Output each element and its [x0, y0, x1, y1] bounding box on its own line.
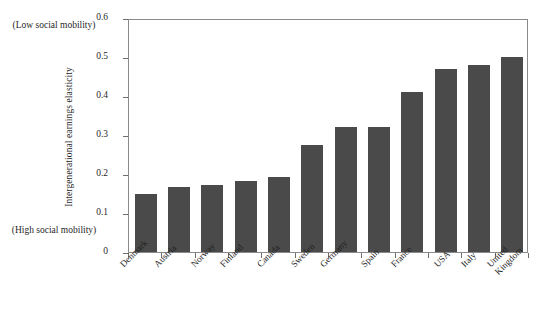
y-tick-label: 0 [103, 246, 108, 256]
plot-area [128, 19, 528, 253]
chart-page: (Low social mobility) (High social mobil… [0, 0, 546, 316]
annotation-high-social-mobility: (High social mobility) [2, 224, 106, 236]
bar [335, 127, 357, 252]
x-tick-mark [528, 253, 529, 258]
y-tick-label: 0.3 [96, 129, 108, 139]
y-tick-label: 0.5 [96, 51, 108, 61]
bar [435, 69, 457, 252]
bar [368, 127, 390, 252]
y-axis-title: Intergenerational earnings elasticity [64, 47, 74, 227]
bar [235, 181, 257, 252]
bar [401, 92, 423, 252]
bar [301, 145, 323, 252]
bar [268, 177, 290, 252]
x-tick-mark [428, 253, 429, 258]
y-tick-label: 0.4 [96, 90, 108, 100]
y-tick-label: 0.2 [96, 168, 108, 178]
y-tick-label: 0.6 [96, 12, 108, 22]
bars-container [129, 20, 527, 252]
bar [468, 65, 490, 252]
y-tick-label: 0.1 [96, 207, 108, 217]
annotation-low-social-mobility: (Low social mobility) [2, 19, 106, 31]
bar [501, 57, 523, 252]
